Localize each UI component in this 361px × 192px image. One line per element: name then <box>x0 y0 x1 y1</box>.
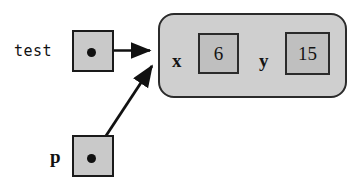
variable-label-p: p <box>50 147 61 166</box>
field-key-x: x <box>172 51 182 70</box>
field-value-y[interactable]: 15 <box>285 32 330 75</box>
diagram-canvas: test p x 6 y 15 <box>0 0 361 192</box>
field-key-y: y <box>259 51 269 70</box>
variable-cell-test[interactable] <box>72 30 114 72</box>
pointer-dot-test <box>87 48 96 57</box>
field-value-x[interactable]: 6 <box>198 33 239 74</box>
pointer-dot-p <box>87 154 96 163</box>
heap-object[interactable]: x 6 y 15 <box>158 13 347 98</box>
variable-label-test: test <box>14 44 52 59</box>
variable-cell-p[interactable] <box>72 135 114 177</box>
